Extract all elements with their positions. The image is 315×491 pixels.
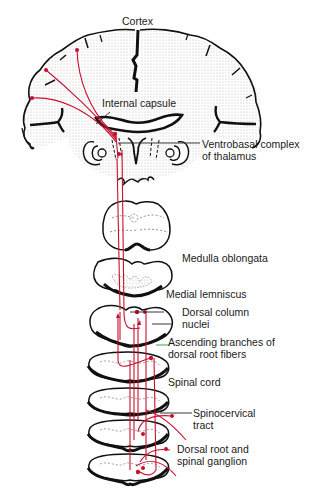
label-ascending-line1: Ascending branches of bbox=[168, 336, 275, 348]
pathway-diagram bbox=[0, 0, 315, 491]
label-medulla: Medulla oblongata bbox=[182, 252, 268, 264]
medulla-section bbox=[94, 258, 172, 296]
label-ascending-line2: dorsal root fibers bbox=[168, 348, 246, 360]
label-cortex: Cortex bbox=[122, 15, 153, 27]
pons-section bbox=[103, 201, 170, 250]
label-spinal-cord: Spinal cord bbox=[168, 376, 221, 388]
label-spinocervical-line2: tract bbox=[193, 419, 213, 431]
spinal-cord-section-2 bbox=[88, 388, 169, 415]
label-ventrobasal-line1: Ventrobasal complex bbox=[202, 138, 299, 150]
spinal-cord-section-4 bbox=[88, 454, 169, 485]
label-dorsal-root-line2: spinal ganglion bbox=[177, 455, 247, 467]
label-ventrobasal-line2: of thalamus bbox=[202, 150, 256, 162]
label-spinocervical-line1: Spinocervical bbox=[193, 407, 255, 419]
label-medial-lemniscus: Medial lemniscus bbox=[166, 288, 247, 300]
label-dorsal-column-line1: Dorsal column bbox=[182, 306, 249, 318]
spinal-cord-section-1 bbox=[88, 352, 169, 382]
spinal-cord-section-3 bbox=[88, 420, 169, 451]
label-dorsal-column-line2: nuclei bbox=[182, 318, 209, 330]
label-dorsal-root-line1: Dorsal root and bbox=[177, 443, 249, 455]
label-internal-capsule: Internal capsule bbox=[102, 97, 176, 109]
